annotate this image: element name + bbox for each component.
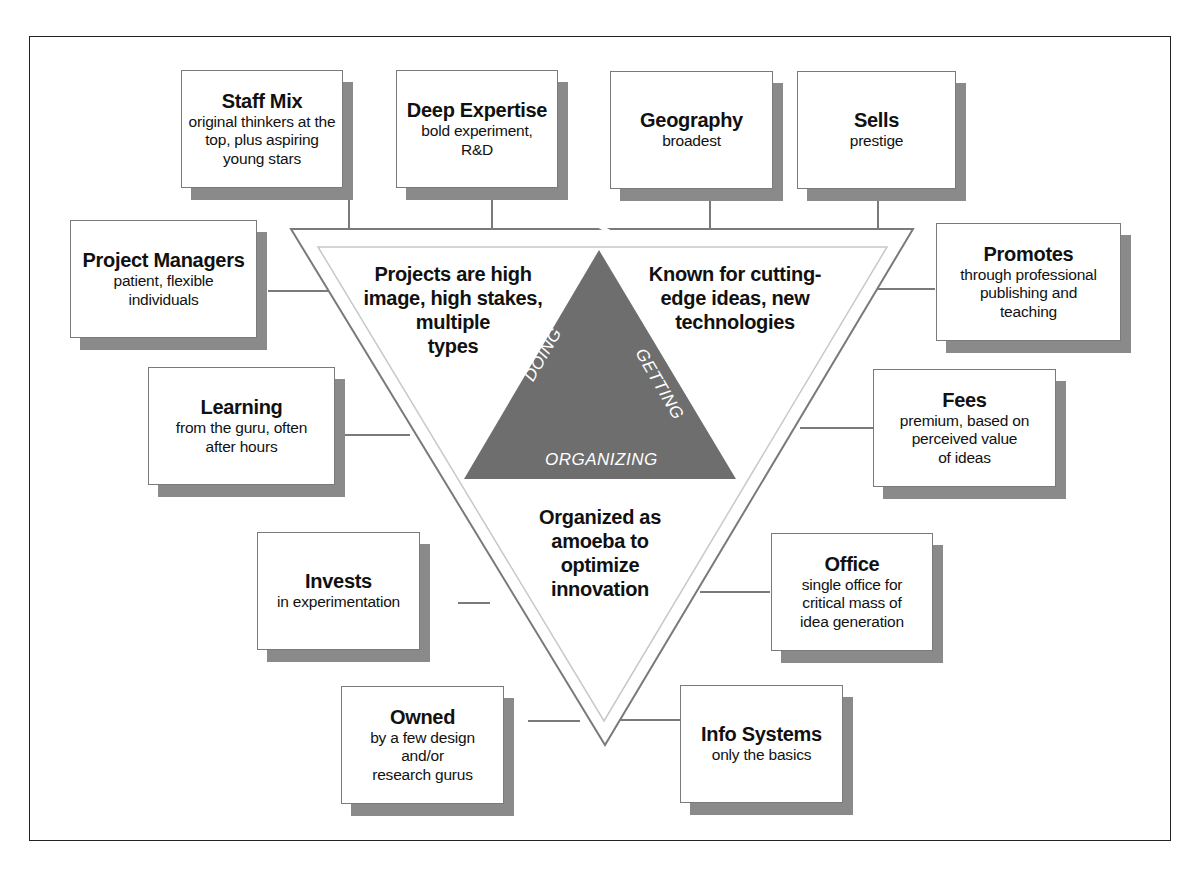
box-invests: Investsin experimentation (257, 532, 420, 650)
box-project-managers: Project Managerspatient, flexible indivi… (70, 220, 257, 338)
label-organizing: ORGANIZING (545, 450, 658, 470)
box-learning: Learningfrom the guru, often after hours (148, 367, 335, 485)
box-office: Officesingle office for critical mass of… (771, 533, 933, 651)
box-promotes: Promotesthrough professional publishing … (936, 223, 1121, 341)
center-text-known-for: Known for cutting- edge ideas, new techn… (630, 262, 840, 334)
box-staff-mix: Staff Mixoriginal thinkers at the top, p… (181, 70, 343, 188)
box-sells: Sellsprestige (797, 71, 956, 189)
center-text-projects: Projects are high image, high stakes, mu… (355, 262, 551, 358)
box-fees: Feespremium, based on perceived value of… (873, 369, 1056, 487)
box-info-systems: Info Systemsonly the basics (680, 685, 843, 803)
box-owned: Ownedby a few design and/or research gur… (341, 686, 504, 804)
box-geography: Geographybroadest (610, 71, 773, 189)
center-text-organized: Organized as amoeba to optimize innovati… (500, 505, 700, 601)
box-deep-expertise: Deep Expertisebold experiment, R&D (396, 70, 558, 188)
